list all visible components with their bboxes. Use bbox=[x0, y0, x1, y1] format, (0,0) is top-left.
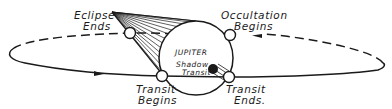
label-eclipse-ends-line2: Ends bbox=[83, 20, 111, 32]
label-occultation-begins-line2: Begins bbox=[234, 20, 273, 32]
label-transit-begins-line2: Begins bbox=[138, 94, 177, 106]
orbit-direction-arrow-top bbox=[252, 34, 262, 38]
moon-eclipse-ends bbox=[125, 28, 136, 39]
moon-transit-begins bbox=[157, 71, 168, 82]
moon-transit-ends bbox=[224, 72, 235, 83]
label-transit-ends-line2: Ends. bbox=[234, 94, 266, 106]
jupiter-satellite-diagram: Eclipse Ends Occultation Begins Transit … bbox=[0, 0, 392, 109]
label-shadow-transit-line2: Transit bbox=[182, 68, 211, 77]
label-jupiter: JUPITER bbox=[173, 48, 207, 57]
